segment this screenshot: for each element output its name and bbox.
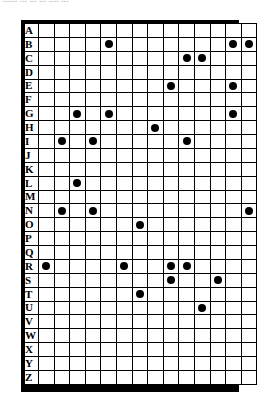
grid-cell[interactable]: [39, 329, 55, 343]
grid-cell[interactable]: [241, 246, 257, 260]
grid-cell[interactable]: [101, 135, 117, 149]
grid-cell[interactable]: [194, 135, 210, 149]
grid-cell[interactable]: [241, 370, 257, 384]
grid-cell[interactable]: [54, 162, 70, 176]
grid-cell[interactable]: [101, 343, 117, 357]
grid-cell[interactable]: [194, 370, 210, 384]
grid-cell[interactable]: [39, 246, 55, 260]
grid-cell[interactable]: [163, 259, 179, 273]
grid-cell[interactable]: [163, 357, 179, 371]
grid-cell[interactable]: [132, 204, 148, 218]
grid-cell[interactable]: [132, 190, 148, 204]
grid-cell[interactable]: [54, 79, 70, 93]
grid-cell[interactable]: [179, 79, 195, 93]
grid-cell[interactable]: [39, 37, 55, 51]
grid-cell[interactable]: [241, 329, 257, 343]
grid-cell[interactable]: [39, 315, 55, 329]
grid-cell[interactable]: [116, 93, 132, 107]
grid-cell[interactable]: [101, 51, 117, 65]
grid-cell[interactable]: [132, 93, 148, 107]
grid-cell[interactable]: [85, 51, 101, 65]
grid-cell[interactable]: [70, 148, 86, 162]
grid-cell[interactable]: [241, 232, 257, 246]
grid-cell[interactable]: [179, 176, 195, 190]
grid-cell[interactable]: [241, 204, 257, 218]
grid-cell[interactable]: [39, 273, 55, 287]
grid-cell[interactable]: [54, 93, 70, 107]
grid-cell[interactable]: [194, 24, 210, 38]
grid-cell[interactable]: [39, 357, 55, 371]
grid-cell[interactable]: [101, 357, 117, 371]
grid-cell[interactable]: [85, 232, 101, 246]
grid-cell[interactable]: [148, 301, 164, 315]
grid-cell[interactable]: [116, 51, 132, 65]
grid-cell[interactable]: [70, 329, 86, 343]
grid-cell[interactable]: [132, 301, 148, 315]
grid-cell[interactable]: [148, 79, 164, 93]
grid-cell[interactable]: [39, 218, 55, 232]
grid-cell[interactable]: [226, 107, 242, 121]
grid-cell[interactable]: [163, 232, 179, 246]
grid-cell[interactable]: [85, 121, 101, 135]
grid-cell[interactable]: [194, 51, 210, 65]
grid-cell[interactable]: [101, 329, 117, 343]
grid-cell[interactable]: [101, 204, 117, 218]
grid-cell[interactable]: [132, 218, 148, 232]
grid-cell[interactable]: [39, 121, 55, 135]
grid-cell[interactable]: [210, 93, 226, 107]
grid-cell[interactable]: [148, 121, 164, 135]
grid-cell[interactable]: [54, 315, 70, 329]
grid-cell[interactable]: [241, 176, 257, 190]
grid-cell[interactable]: [70, 190, 86, 204]
grid-cell[interactable]: [54, 370, 70, 384]
grid-cell[interactable]: [163, 273, 179, 287]
grid-cell[interactable]: [210, 287, 226, 301]
grid-cell[interactable]: [163, 190, 179, 204]
grid-cell[interactable]: [210, 301, 226, 315]
grid-cell[interactable]: [70, 93, 86, 107]
grid-cell[interactable]: [148, 37, 164, 51]
grid-cell[interactable]: [241, 93, 257, 107]
grid-cell[interactable]: [39, 259, 55, 273]
grid-cell[interactable]: [194, 259, 210, 273]
grid-cell[interactable]: [116, 357, 132, 371]
grid-cell[interactable]: [194, 329, 210, 343]
grid-cell[interactable]: [148, 65, 164, 79]
grid-cell[interactable]: [132, 121, 148, 135]
grid-cell[interactable]: [179, 287, 195, 301]
grid-cell[interactable]: [101, 162, 117, 176]
grid-cell[interactable]: [179, 218, 195, 232]
grid-cell[interactable]: [39, 65, 55, 79]
grid-cell[interactable]: [226, 148, 242, 162]
grid-cell[interactable]: [148, 107, 164, 121]
grid-cell[interactable]: [210, 204, 226, 218]
grid-cell[interactable]: [39, 370, 55, 384]
grid-cell[interactable]: [179, 37, 195, 51]
grid-cell[interactable]: [179, 273, 195, 287]
grid-cell[interactable]: [179, 148, 195, 162]
grid-cell[interactable]: [148, 148, 164, 162]
grid-cell[interactable]: [116, 218, 132, 232]
grid-cell[interactable]: [54, 343, 70, 357]
grid-cell[interactable]: [241, 259, 257, 273]
grid-cell[interactable]: [241, 162, 257, 176]
grid-cell[interactable]: [70, 315, 86, 329]
grid-cell[interactable]: [39, 343, 55, 357]
grid-cell[interactable]: [194, 218, 210, 232]
grid-cell[interactable]: [70, 162, 86, 176]
grid-cell[interactable]: [210, 148, 226, 162]
grid-cell[interactable]: [163, 79, 179, 93]
grid-cell[interactable]: [116, 24, 132, 38]
grid-cell[interactable]: [85, 148, 101, 162]
grid-cell[interactable]: [148, 370, 164, 384]
grid-cell[interactable]: [226, 232, 242, 246]
grid-cell[interactable]: [210, 357, 226, 371]
grid-cell[interactable]: [194, 93, 210, 107]
grid-cell[interactable]: [210, 329, 226, 343]
grid-cell[interactable]: [179, 162, 195, 176]
grid-cell[interactable]: [163, 370, 179, 384]
grid-cell[interactable]: [194, 273, 210, 287]
grid-cell[interactable]: [70, 287, 86, 301]
grid-cell[interactable]: [194, 190, 210, 204]
grid-cell[interactable]: [39, 135, 55, 149]
